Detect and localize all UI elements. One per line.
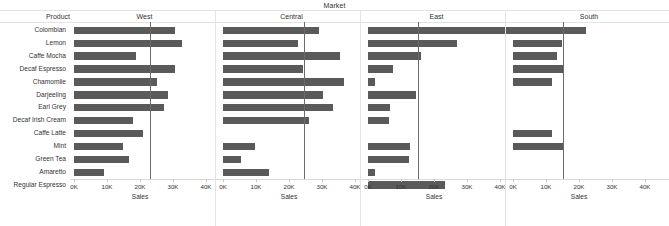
bar[interactable] <box>223 169 269 176</box>
axis-tick-label: 0K <box>509 183 517 190</box>
product-label: Regular Espresso <box>0 179 70 192</box>
panel-south: 0K10K20K30K40KSales <box>509 11 669 226</box>
bar-row <box>70 127 219 140</box>
axis-tick <box>579 179 580 182</box>
panel-separator-rule <box>215 11 216 226</box>
bar[interactable] <box>74 40 182 47</box>
bar[interactable] <box>368 169 375 176</box>
bar-row <box>219 127 364 140</box>
bar[interactable] <box>74 130 143 137</box>
axis-tick <box>612 179 613 182</box>
axis-title: Sales <box>509 193 649 200</box>
bar-row <box>364 63 509 76</box>
bar-row <box>219 76 364 89</box>
axis-tick <box>513 179 514 182</box>
bar[interactable] <box>74 156 129 163</box>
bar-row <box>219 166 364 179</box>
axis-title: Sales <box>364 193 504 200</box>
bar[interactable] <box>513 78 552 85</box>
axis-tick-label: 40K <box>639 183 650 190</box>
bar-row <box>70 166 219 179</box>
bar[interactable] <box>368 117 389 124</box>
bar[interactable] <box>74 78 157 85</box>
bar[interactable] <box>223 78 344 85</box>
plot-area <box>509 24 669 179</box>
bar[interactable] <box>368 78 375 85</box>
bar-row <box>219 24 364 37</box>
bar[interactable] <box>513 40 562 47</box>
bar[interactable] <box>223 156 241 163</box>
bar-row <box>364 127 509 140</box>
bar-row <box>509 76 669 89</box>
bar[interactable] <box>368 65 393 72</box>
product-label: Caffe Latte <box>0 127 70 140</box>
bar[interactable] <box>74 169 104 176</box>
bar[interactable] <box>368 156 409 163</box>
bar[interactable] <box>74 143 123 150</box>
bar[interactable] <box>74 91 168 98</box>
axis-tick <box>140 179 141 182</box>
reference-line <box>563 22 564 180</box>
axis-tick-label: 30K <box>606 183 617 190</box>
bar[interactable] <box>368 27 521 34</box>
bar-row <box>70 63 219 76</box>
bar-row <box>70 153 219 166</box>
bar[interactable] <box>223 117 309 124</box>
reference-line <box>304 22 305 180</box>
bar[interactable] <box>223 27 319 34</box>
bar-row <box>509 37 669 50</box>
bar[interactable] <box>368 104 390 111</box>
bar[interactable] <box>223 91 323 98</box>
axis-tick <box>368 179 369 182</box>
bar-row <box>364 114 509 127</box>
bar[interactable] <box>513 130 552 137</box>
bar-row <box>70 140 219 153</box>
axis-line <box>70 179 219 180</box>
bar[interactable] <box>223 143 255 150</box>
bar[interactable] <box>223 40 298 47</box>
bar[interactable] <box>74 117 133 124</box>
bar[interactable] <box>223 65 303 72</box>
axis-tick-label: 40K <box>349 183 360 190</box>
axis-tick <box>206 179 207 182</box>
bar[interactable] <box>513 52 557 59</box>
axis-tick <box>546 179 547 182</box>
bar[interactable] <box>74 27 175 34</box>
bar-row <box>70 50 219 63</box>
sales-by-market-chart: Market Product WestCentralEastSouth Colo… <box>0 0 669 226</box>
bar[interactable] <box>223 104 333 111</box>
panel-west: 0K10K20K30K40KSales <box>70 11 219 226</box>
panel-central: 0K10K20K30K40KSales <box>219 11 364 226</box>
bar[interactable] <box>513 143 563 150</box>
bar-row <box>364 101 509 114</box>
bar[interactable] <box>368 91 416 98</box>
axis-line <box>364 179 509 180</box>
panel-separator-rule <box>360 11 361 226</box>
bar[interactable] <box>368 40 457 47</box>
axis-title: Sales <box>219 193 359 200</box>
axis-tick-label: 40K <box>494 183 505 190</box>
plot-area <box>364 24 509 179</box>
bar-row <box>364 50 509 63</box>
axis-tick-label: 10K <box>250 183 261 190</box>
bar[interactable] <box>74 65 175 72</box>
bar-row <box>364 166 509 179</box>
bar[interactable] <box>368 52 421 59</box>
plot-area <box>70 24 219 179</box>
x-axis: 0K10K20K30K40KSales <box>509 179 669 209</box>
x-axis: 0K10K20K30K40KSales <box>364 179 509 209</box>
axis-tick-label: 20K <box>428 183 439 190</box>
bar[interactable] <box>513 27 586 34</box>
reference-line <box>418 22 419 180</box>
bar-row <box>219 101 364 114</box>
bar-row <box>219 50 364 63</box>
bar-row <box>364 140 509 153</box>
product-label: Darjeeling <box>0 89 70 102</box>
bar[interactable] <box>513 65 563 72</box>
product-label: Decaf Irish Cream <box>0 114 70 127</box>
bar[interactable] <box>368 143 410 150</box>
bar-row <box>219 114 364 127</box>
bar[interactable] <box>74 52 136 59</box>
bar[interactable] <box>223 52 340 59</box>
bar-row <box>364 24 509 37</box>
